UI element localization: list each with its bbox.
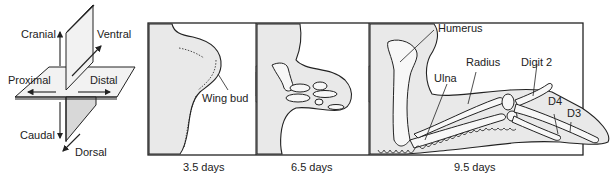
caption-6-5-days: 6.5 days (291, 161, 333, 173)
vertical-plane-lower (66, 97, 96, 141)
label-radius: Radius (466, 56, 501, 68)
carpal-bone (502, 94, 514, 110)
label-humerus: Humerus (438, 22, 483, 34)
label-distal: Distal (90, 74, 118, 86)
caption-3-5-days: 3.5 days (183, 161, 225, 173)
label-ulna: Ulna (434, 72, 458, 84)
cartilage-element (286, 94, 310, 102)
cartilage-element (313, 82, 327, 90)
anatomical-axes-diagram: Cranial Ventral Proximal Distal Caudal D… (8, 5, 135, 158)
label-d3: D3 (567, 107, 581, 119)
label-ventral: Ventral (97, 28, 131, 40)
cartilage-element (315, 99, 323, 105)
label-proximal: Proximal (8, 74, 51, 86)
cartilage-element (328, 105, 344, 110)
label-caudal: Caudal (20, 129, 55, 141)
wing-development-diagram: Cranial Ventral Proximal Distal Caudal D… (0, 0, 613, 182)
caption-9-5-days: 9.5 days (454, 161, 496, 173)
cartilage-element (313, 91, 337, 98)
cartilage-element (290, 84, 310, 92)
label-d4: D4 (548, 95, 562, 107)
label-digit-2: Digit 2 (521, 56, 552, 68)
label-wing-bud: Wing bud (202, 92, 248, 104)
label-dorsal: Dorsal (75, 146, 107, 158)
label-cranial: Cranial (21, 28, 56, 40)
